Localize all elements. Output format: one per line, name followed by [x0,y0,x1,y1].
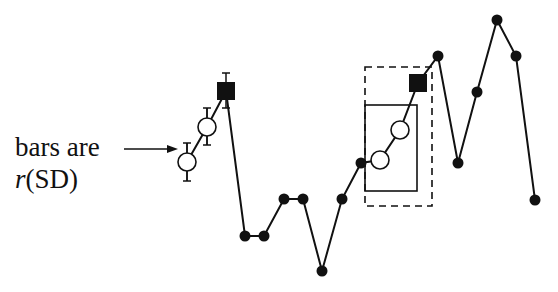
filled-circle-marker [298,194,309,205]
filled-circle-marker [337,194,348,205]
filled-circle-marker [530,195,541,206]
filled-circle-marker [492,15,503,26]
data-line [187,20,535,271]
filled-circle-marker [433,51,444,62]
filled-square-marker [409,74,427,92]
line-plot [0,0,558,292]
open-circle-marker [198,118,216,136]
filled-circle-marker [356,158,367,169]
filled-circle-marker [279,194,290,205]
filled-circle-marker [472,87,483,98]
filled-circle-marker [317,266,328,277]
filled-circle-marker [453,158,464,169]
filled-square-marker [217,82,235,100]
open-circle-marker [391,121,409,139]
filled-circle-marker [240,231,251,242]
open-circle-marker [371,151,389,169]
solid-box [365,105,417,191]
filled-circle-marker [259,231,270,242]
diagram: bars are r(SD) [0,0,558,292]
filled-circle-marker [511,51,522,62]
open-circle-marker [178,153,196,171]
arrow-head-icon [167,145,178,153]
